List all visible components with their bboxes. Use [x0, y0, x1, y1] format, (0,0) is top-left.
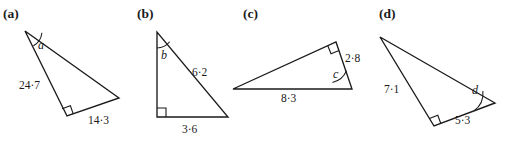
panel-b-side-label-3-6: 3·6: [182, 123, 198, 135]
panel-a-label: (a): [3, 6, 19, 21]
panel-c-side-label-2-8: 2·8: [345, 52, 361, 64]
panel-a-angle-label: a: [38, 38, 44, 52]
panel-d-side-label-7-1: 7·1: [384, 83, 400, 95]
panel-c-angle-label: c: [333, 67, 339, 81]
panel-d: (d) d 7·1 5·3: [379, 6, 495, 126]
panel-b-side-label-6-2: 6·2: [192, 66, 208, 78]
panel-d-label: (d): [379, 6, 396, 21]
panel-a-side-label-24-7: 24·7: [19, 79, 40, 91]
panel-a: (a) a 24·7 14·3: [3, 6, 119, 126]
panel-c-side-label-8-3: 8·3: [281, 92, 297, 104]
panel-d-angle-label: d: [472, 83, 479, 97]
panel-c-label: (c): [243, 6, 258, 21]
panel-a-side-label-14-3: 14·3: [88, 114, 109, 126]
triangles-figure: (a) a 24·7 14·3 (b) b 6·2 3·6 (c) c 2·8 …: [0, 0, 516, 146]
panel-b-angle-label: b: [161, 48, 167, 62]
panel-d-side-label-5-3: 5·3: [455, 114, 471, 126]
panel-b-right-angle-marker: [157, 108, 166, 117]
panel-b-label: (b): [137, 6, 154, 21]
panel-c: (c) c 2·8 8·3: [233, 6, 361, 104]
panel-d-triangle: [380, 37, 495, 126]
panel-b: (b) b 6·2 3·6: [137, 6, 228, 135]
